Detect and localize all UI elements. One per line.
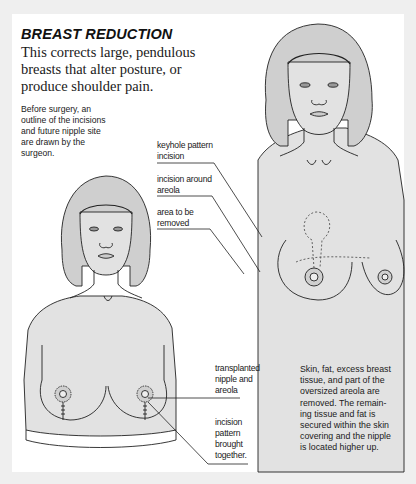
- page-title: BREAST REDUCTION: [21, 26, 172, 42]
- label-incision-pattern: incision pattern brought together.: [215, 417, 247, 461]
- after-description: Skin, fat, excess breast tissue, and par…: [300, 364, 416, 454]
- eye-left-before: [300, 83, 310, 87]
- face-before: [288, 62, 350, 135]
- eye-right-after: [114, 227, 123, 231]
- eye-right-before: [328, 83, 338, 87]
- eye-left-after: [90, 227, 99, 231]
- label-area-to-be-removed: area to be removed: [157, 207, 194, 229]
- label-incision-around-areola: incision around areola: [157, 174, 212, 196]
- mouth-after: [98, 254, 114, 259]
- label-transplanted-nipple: transplanted nipple and areola: [215, 363, 260, 396]
- lead-text: This corrects large, pendulous breasts t…: [21, 44, 221, 95]
- label-keyhole-incision: keyhole pattern incision: [157, 140, 213, 162]
- before-note: Before surgery, an outline of the incisi…: [21, 104, 106, 159]
- torso-after: [24, 296, 176, 436]
- figure-after-surgery: [24, 176, 176, 448]
- mouth-before: [310, 112, 328, 117]
